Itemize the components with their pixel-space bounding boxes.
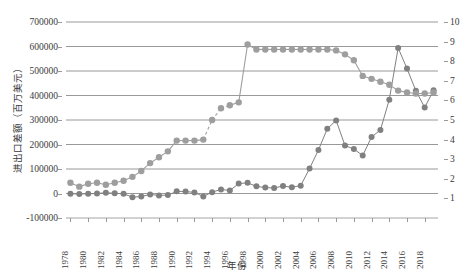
y-tick-right: [444, 179, 448, 180]
series-line-segment: [363, 137, 372, 156]
x-tick: [318, 218, 319, 222]
x-tick: [265, 218, 266, 222]
y-tick-label-left: 600000: [30, 42, 59, 52]
data-point-marker: [103, 190, 109, 196]
y-tick-right: [444, 42, 448, 43]
x-tick: [425, 218, 426, 222]
series-canvas: [66, 22, 438, 218]
y-tick-left: [58, 169, 62, 170]
x-axis-title: 年份: [0, 258, 474, 272]
x-tick: [159, 218, 160, 222]
y-tick-right: [444, 100, 448, 101]
data-point-marker: [112, 180, 118, 186]
data-point-marker: [245, 180, 251, 186]
x-tick: [407, 218, 408, 222]
x-tick: [354, 218, 355, 222]
y-tick-left: [58, 71, 62, 72]
data-point-marker: [236, 99, 242, 105]
data-point-marker: [85, 191, 91, 197]
data-point-marker: [253, 46, 259, 52]
series-line-segment: [310, 150, 319, 168]
x-axis-labels: 1978198019821984198619881990199219941996…: [66, 220, 438, 260]
data-point-marker: [121, 191, 127, 197]
data-point-marker: [342, 51, 348, 57]
data-point-marker: [165, 192, 171, 198]
data-point-marker: [174, 137, 180, 143]
series-line-segment: [380, 100, 389, 130]
data-point-marker: [280, 183, 286, 189]
x-tick: [106, 218, 107, 222]
data-point-marker: [253, 183, 259, 189]
data-point-marker: [156, 154, 162, 160]
data-point-marker: [76, 183, 82, 189]
data-point-marker: [94, 191, 100, 197]
series-line-segment: [336, 120, 345, 145]
data-point-marker: [76, 191, 82, 197]
y-tick-label-left: 400000: [30, 91, 59, 101]
data-point-marker: [377, 79, 383, 85]
data-point-marker: [430, 89, 436, 95]
data-point-marker: [386, 82, 392, 88]
data-point-marker: [218, 186, 224, 192]
x-tick: [141, 218, 142, 222]
data-point-marker: [165, 148, 171, 154]
data-point-marker: [404, 89, 410, 95]
data-point-marker: [103, 181, 109, 187]
data-point-marker: [315, 147, 321, 153]
y-tick-label-right: 3: [450, 154, 455, 164]
data-point-marker: [298, 46, 304, 52]
data-point-marker: [333, 47, 339, 53]
x-tick: [70, 218, 71, 222]
data-point-marker: [262, 46, 268, 52]
data-point-marker: [377, 127, 383, 133]
data-point-marker: [289, 184, 295, 190]
data-point-marker: [147, 191, 153, 197]
data-point-marker: [360, 153, 366, 159]
data-point-marker: [289, 46, 295, 52]
y-tick-label-right: 1: [450, 193, 455, 203]
data-point-marker: [386, 97, 392, 103]
data-point-marker: [183, 189, 189, 195]
data-point-marker: [227, 188, 233, 194]
data-point-marker: [227, 102, 233, 108]
data-point-marker: [209, 189, 215, 195]
data-point-marker: [298, 183, 304, 189]
x-tick: [283, 218, 284, 222]
data-point-marker: [200, 193, 206, 199]
y-tick-label-left: 100000: [30, 164, 59, 174]
data-point-marker: [94, 180, 100, 186]
data-point-marker: [324, 46, 330, 52]
data-point-marker: [360, 73, 366, 79]
y-tick-right: [444, 22, 448, 23]
data-point-marker: [404, 66, 410, 72]
series-line-segment: [203, 120, 212, 140]
x-tick: [248, 218, 249, 222]
data-point-marker: [351, 57, 357, 63]
data-point-marker: [200, 136, 206, 142]
data-point-marker: [307, 166, 313, 172]
y-axis-title-text: 进出口差额（百万美元）: [10, 63, 24, 173]
y-tick-label-right: 9: [450, 37, 455, 47]
y-axis-title: 进出口差额（百万美元）: [10, 38, 24, 198]
data-point-marker: [129, 174, 135, 180]
y-tick-right: [444, 140, 448, 141]
chart-figure: -100000010000020000030000040000050000060…: [0, 0, 474, 273]
y-tick-label-right: 2: [450, 174, 455, 184]
data-point-marker: [368, 76, 374, 82]
y-axis-right-labels: 12345678910: [444, 0, 474, 273]
y-tick-label-right: 8: [450, 56, 455, 66]
plot-area: [66, 22, 438, 218]
series-line-segment: [407, 69, 416, 91]
data-point-marker: [174, 188, 180, 194]
y-tick-label-right: 4: [450, 135, 455, 145]
y-tick-label-left: 300000: [30, 115, 59, 125]
data-point-marker: [218, 105, 224, 111]
series-line-segment: [318, 129, 327, 150]
x-tick: [301, 218, 302, 222]
series-line-segment: [239, 45, 248, 103]
data-point-marker: [236, 181, 242, 187]
y-tick-right: [444, 61, 448, 62]
data-point-marker: [156, 192, 162, 198]
x-tick: [212, 218, 213, 222]
y-tick-label-left: 500000: [30, 66, 59, 76]
